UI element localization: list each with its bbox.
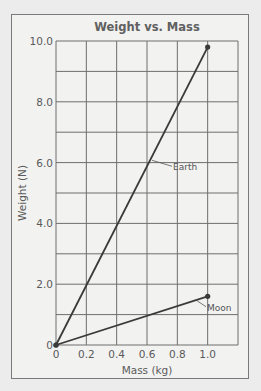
x-axis-label: Mass (kg)	[122, 364, 173, 376]
series-line-moon	[56, 296, 208, 345]
grid	[56, 41, 238, 345]
y-tick-label: 6.0	[36, 157, 53, 169]
y-axis-ticks: 02.04.06.08.010.0	[30, 35, 53, 351]
x-tick-label: 1.0	[199, 348, 216, 360]
chart-title: Weight vs. Mass	[94, 20, 200, 34]
weight-vs-mass-chart: Weight vs. Mass 02.04.06.08.010.0 00.20.…	[0, 0, 261, 391]
moon-label: Moon	[207, 303, 231, 313]
annotations: EarthMoon	[152, 160, 232, 312]
y-axis-label: Weight (N)	[16, 165, 28, 221]
x-tick-label: 0.4	[108, 348, 125, 360]
x-axis-ticks: 00.20.40.60.81.0	[53, 348, 216, 360]
x-tick-label: 0	[53, 348, 60, 360]
series-line-earth	[56, 47, 208, 345]
earth-leader-line	[152, 160, 172, 166]
earth-label: Earth	[173, 162, 197, 172]
y-tick-label: 2.0	[36, 278, 53, 290]
y-tick-label: 10.0	[30, 35, 53, 47]
x-tick-label: 0.8	[169, 348, 186, 360]
data-point-moon	[53, 342, 58, 347]
moon-leader-line	[197, 301, 206, 307]
data-point-moon	[205, 294, 210, 299]
data-point-earth	[205, 44, 210, 49]
data-series	[53, 44, 210, 347]
x-tick-label: 0.6	[139, 348, 156, 360]
y-tick-label: 8.0	[36, 96, 53, 108]
x-tick-label: 0.2	[78, 348, 95, 360]
y-tick-label: 4.0	[36, 217, 53, 229]
